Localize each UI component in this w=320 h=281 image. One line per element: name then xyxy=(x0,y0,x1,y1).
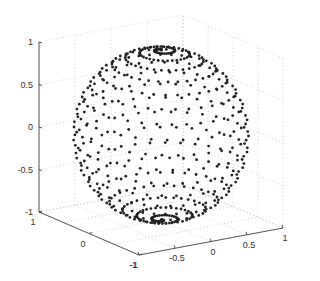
data-point xyxy=(134,180,137,183)
data-point xyxy=(78,103,81,106)
data-point xyxy=(134,143,137,146)
data-point xyxy=(123,165,126,168)
data-point xyxy=(170,111,173,114)
data-point xyxy=(106,175,109,178)
data-point xyxy=(183,57,186,60)
data-point xyxy=(73,120,76,123)
data-point xyxy=(80,164,83,167)
data-point xyxy=(152,185,155,188)
data-point xyxy=(185,219,188,222)
data-point xyxy=(236,154,239,157)
data-point xyxy=(114,87,117,90)
data-point xyxy=(143,46,146,49)
data-point xyxy=(202,192,205,195)
data-point xyxy=(165,222,168,225)
data-point xyxy=(212,193,215,196)
data-point xyxy=(207,190,210,193)
data-point xyxy=(95,171,98,174)
data-point xyxy=(239,143,242,146)
x-tick-label: -0.5 xyxy=(169,253,185,263)
data-point xyxy=(223,133,226,136)
data-point xyxy=(236,177,239,180)
data-point xyxy=(143,83,146,86)
data-point xyxy=(188,51,191,54)
data-point xyxy=(100,198,103,201)
data-point xyxy=(246,151,249,154)
data-point xyxy=(132,98,135,101)
data-point xyxy=(184,209,187,212)
data-point xyxy=(81,96,84,99)
data-point xyxy=(220,197,223,200)
data-point xyxy=(185,123,188,126)
data-point xyxy=(147,172,150,175)
data-point xyxy=(167,46,170,49)
data-point xyxy=(138,62,141,65)
data-point xyxy=(108,203,111,206)
z-tick-label: -1 xyxy=(25,207,33,217)
data-point xyxy=(82,142,85,145)
x-tick-label: 1 xyxy=(282,233,287,243)
data-point xyxy=(125,214,128,217)
data-point xyxy=(182,139,185,142)
data-point xyxy=(232,170,235,173)
data-point xyxy=(140,219,143,222)
data-point xyxy=(116,162,119,165)
data-point xyxy=(182,68,185,71)
data-point xyxy=(143,203,146,206)
data-point xyxy=(198,92,201,95)
data-point xyxy=(213,65,216,68)
data-point xyxy=(147,107,150,110)
data-point xyxy=(166,182,169,185)
data-point xyxy=(166,139,169,142)
data-point xyxy=(98,187,101,190)
data-point xyxy=(72,139,75,142)
data-point xyxy=(188,67,191,70)
data-point xyxy=(148,96,151,99)
data-point xyxy=(147,79,150,82)
data-point xyxy=(200,106,203,109)
data-point xyxy=(148,58,151,61)
data-point xyxy=(140,122,143,125)
data-point xyxy=(241,166,244,169)
data-point xyxy=(195,173,198,176)
data-point xyxy=(234,181,237,184)
data-point xyxy=(210,62,213,65)
data-point xyxy=(97,151,100,154)
data-point xyxy=(197,138,200,141)
data-point xyxy=(153,68,156,71)
data-point xyxy=(193,153,196,156)
data-point xyxy=(229,135,232,138)
data-point xyxy=(150,182,153,185)
data-point xyxy=(75,152,78,155)
data-point xyxy=(232,106,235,109)
data-point xyxy=(90,140,93,143)
data-point xyxy=(118,199,121,202)
data-point xyxy=(159,126,162,129)
data-point xyxy=(225,183,228,186)
data-point xyxy=(204,202,207,205)
data-point xyxy=(133,218,136,221)
data-point xyxy=(197,214,200,217)
data-point xyxy=(157,196,160,199)
data-point xyxy=(202,167,205,170)
data-point xyxy=(130,63,133,66)
data-point xyxy=(80,169,83,172)
data-point xyxy=(188,93,191,96)
data-point xyxy=(227,118,230,121)
data-point xyxy=(173,46,176,49)
data-point xyxy=(92,76,95,79)
y-tick-label: 1 xyxy=(30,217,35,227)
data-point xyxy=(106,81,109,84)
data-point xyxy=(159,53,162,56)
data-point xyxy=(93,109,96,112)
data-point xyxy=(194,79,197,82)
data-point xyxy=(95,93,98,96)
data-point xyxy=(195,158,198,161)
data-point xyxy=(117,100,120,103)
data-point xyxy=(155,123,158,126)
data-point xyxy=(211,104,214,107)
data-point xyxy=(91,94,94,97)
data-point xyxy=(212,73,215,76)
data-point xyxy=(189,211,192,214)
data-point xyxy=(105,69,108,72)
